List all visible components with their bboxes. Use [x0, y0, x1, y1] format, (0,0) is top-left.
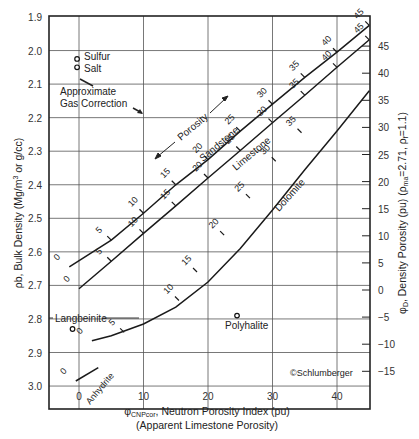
porosity-tick-label: 25 — [223, 112, 237, 126]
y-tick-label: 2.8 — [28, 314, 42, 325]
y2-tick-label: 45 — [378, 41, 390, 52]
y-tick-label: 2.4 — [28, 180, 42, 191]
y2-tick-label: 0 — [378, 285, 384, 296]
y-tick-label: 2.1 — [28, 79, 42, 90]
porosity-tick-label: 25 — [232, 179, 246, 193]
porosity-tick-label: 40 — [319, 33, 333, 47]
polyhalite-label: Polyhalite — [225, 320, 269, 331]
porosity-tick-label: 35 — [284, 114, 298, 128]
y-axis-title: ρb, Bulk Density (Mg/m3 or g/cc) — [12, 138, 24, 289]
y2-tick-label: 10 — [378, 231, 390, 242]
y-tick-label: 2.2 — [28, 113, 42, 124]
porosity-tick-label: 45 — [352, 21, 366, 35]
plot-frame — [49, 16, 370, 409]
porosity-tick-label: 15 — [158, 166, 172, 180]
porosity-tick-label: 10 — [161, 282, 175, 296]
x-tick-label: 10 — [138, 391, 150, 402]
y-tick-label: 1.9 — [28, 12, 42, 23]
y2-tick-label: 30 — [378, 122, 390, 133]
limestone-curve — [79, 40, 369, 289]
x-axis-ticks: 010203040 — [76, 391, 343, 402]
gas-correction-label-line2: Gas Correction — [60, 98, 127, 109]
grid-lines — [49, 16, 370, 409]
y2-tick-label: −5 — [378, 312, 390, 323]
sulfur-label: Sulfur — [84, 51, 111, 62]
salt-point — [75, 65, 80, 70]
x-axis-title: φCNPcor, Neutron Porosity Index (pu) — [124, 405, 290, 418]
anhydrite-label: Anhydrite — [84, 371, 116, 407]
porosity-tick-label: 45 — [352, 7, 366, 21]
x-axis-subtitle: (Apparent Limestone Porosity) — [136, 419, 278, 431]
porosity-tick-label: 30 — [255, 85, 269, 99]
y-tick-label: 2.7 — [28, 280, 42, 291]
dolomite-label: Dolomite — [272, 176, 307, 213]
x-tick-label: 40 — [331, 391, 343, 402]
gas-correction-label-line1: Approximate — [60, 86, 117, 97]
y-tick-label: 2.6 — [28, 247, 42, 258]
porosity-label: Porosity — [175, 111, 210, 143]
porosity-tick-label: 35 — [287, 76, 301, 90]
y2-tick-label: −15 — [378, 366, 395, 377]
porosity-tick-label: 30 — [255, 104, 269, 118]
y-tick-label: 2.0 — [28, 46, 42, 57]
porosity-tick-label: 0 — [58, 366, 69, 377]
porosity-tick-label: 10 — [126, 195, 140, 209]
gas-arrow-1 — [80, 79, 93, 86]
x-tick-label: 0 — [76, 391, 82, 402]
y-axis-ticks: 1.92.02.12.22.32.42.52.62.72.82.93.0 — [28, 12, 42, 392]
x-tick-label: 20 — [202, 391, 214, 402]
porosity-tick-label: 5 — [94, 225, 105, 236]
porosity-tick-label: 0 — [61, 274, 72, 285]
y2-axis-title: φD, Density Porosity (pu) (ρma=2.71, ρf=… — [396, 112, 409, 314]
polyhalite-point — [235, 313, 240, 318]
crossplot-chart: 1.92.02.12.22.32.42.52.62.72.82.93.0 010… — [0, 0, 419, 439]
y2-tick-label: 35 — [378, 95, 390, 106]
copyright-label: ©Schlumberger — [290, 368, 353, 378]
porosity-tick-label: 35 — [287, 59, 301, 73]
y2-axis-ticks: 454035302520151050−5−10−15 — [362, 41, 395, 377]
y2-tick-label: 25 — [378, 150, 390, 161]
y-tick-label: 2.3 — [28, 146, 42, 157]
langbeinite-point — [70, 327, 75, 332]
y2-tick-label: −10 — [378, 339, 395, 350]
y-tick-label: 3.0 — [28, 381, 42, 392]
porosity-tick-label: 0 — [74, 326, 85, 337]
sandstone-label: Sandstone — [197, 124, 241, 163]
y-tick-label: 2.5 — [28, 213, 42, 224]
sulfur-point — [75, 57, 80, 62]
y-tick-label: 2.9 — [28, 348, 42, 359]
porosity-tick-label: 15 — [179, 253, 193, 267]
y2-tick-label: 20 — [378, 177, 390, 188]
y2-tick-label: 15 — [378, 204, 390, 215]
y2-tick-label: 5 — [378, 258, 384, 269]
salt-label: Salt — [84, 63, 101, 74]
langbeinite-label: Langbeinite — [55, 313, 107, 324]
y2-tick-label: 40 — [378, 68, 390, 79]
x-tick-label: 30 — [267, 391, 279, 402]
porosity-tick-label: 0 — [52, 252, 63, 263]
